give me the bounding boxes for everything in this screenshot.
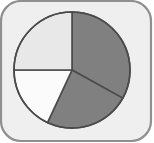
pie-chart-svg [0, 0, 154, 143]
pie-chart-icon-panel[interactable] [0, 0, 154, 143]
